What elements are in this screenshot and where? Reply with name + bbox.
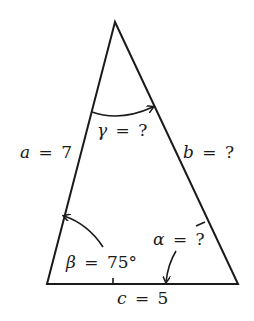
- beta-angle-arc: [64, 216, 103, 247]
- gamma-angle-arc: [92, 107, 153, 116]
- alpha-pointer-arrow: [166, 251, 176, 282]
- side-c-label: c = 5: [117, 288, 168, 308]
- beta-label: β = 75°: [65, 252, 137, 272]
- side-b-label: b = ?: [183, 142, 234, 162]
- gamma-label: γ = ?: [97, 120, 147, 140]
- triangle-diagram: γ = ? a = 7 b = ? α = ? β = 75° c = 5: [0, 0, 254, 321]
- alpha-side-tick: [196, 222, 205, 226]
- side-a-label: a = 7: [20, 142, 72, 162]
- alpha-label: α = ?: [153, 229, 205, 249]
